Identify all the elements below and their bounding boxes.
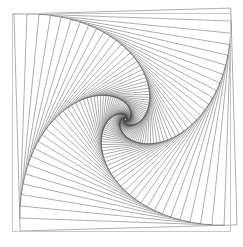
whirl-canvas — [0, 0, 243, 247]
whirl-figure-root — [0, 0, 243, 247]
